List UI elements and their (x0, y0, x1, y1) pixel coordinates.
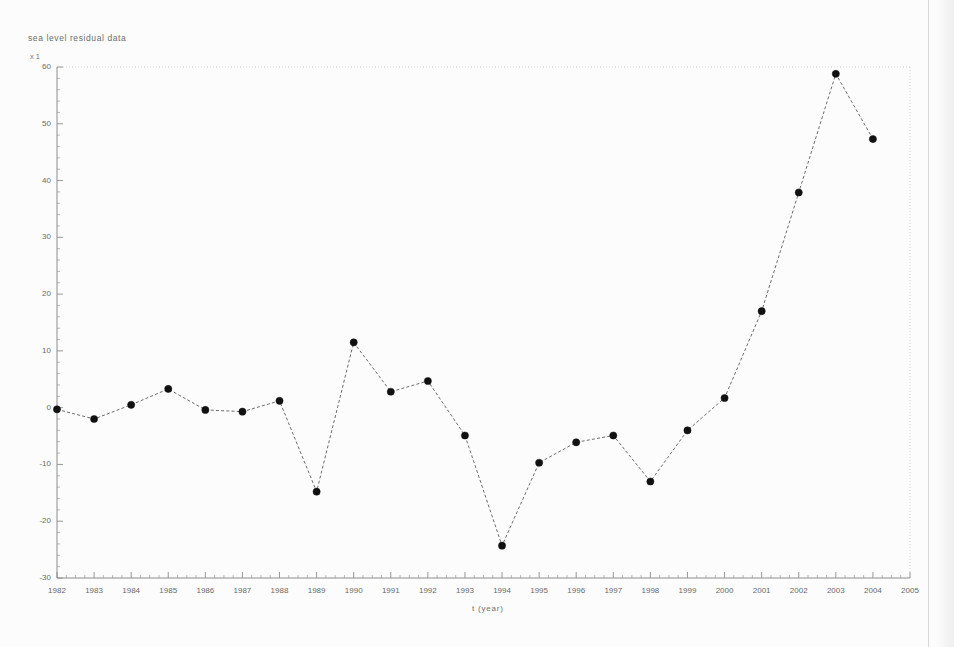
x-tick-label: 1993 (448, 586, 482, 595)
figure-page: sea level residual data x 1 t (year) 605… (0, 0, 954, 647)
data-point-marker (387, 388, 394, 395)
data-markers-group (53, 70, 876, 549)
x-tick-label: 2001 (745, 586, 779, 595)
plot-title: sea level residual data (28, 33, 126, 43)
x-tick-label: 1997 (596, 586, 630, 595)
x-tick-label: 2000 (708, 586, 742, 595)
y-tick-label: 30 (25, 232, 51, 241)
x-tick-label: 1988 (263, 586, 297, 595)
data-point-marker (202, 406, 209, 413)
tick-marks-group (57, 67, 910, 578)
x-tick-label: 1994 (485, 586, 519, 595)
y-tick-label: -20 (25, 516, 51, 525)
x-tick-label: 1990 (337, 586, 371, 595)
data-point-marker (573, 439, 580, 446)
data-point-marker (721, 394, 728, 401)
x-tick-label: 1996 (559, 586, 593, 595)
x-tick-label: 1983 (77, 586, 111, 595)
data-point-marker (165, 385, 172, 392)
y-tick-label: 0 (25, 403, 51, 412)
x-tick-label: 2002 (782, 586, 816, 595)
data-point-marker (350, 339, 357, 346)
y-tick-label: -30 (25, 573, 51, 582)
data-line (57, 74, 873, 546)
data-point-marker (610, 432, 617, 439)
y-tick-label: 60 (25, 62, 51, 71)
y-tick-label: 40 (25, 176, 51, 185)
data-point-marker (313, 488, 320, 495)
data-point-marker (684, 427, 691, 434)
data-point-marker (461, 432, 468, 439)
x-tick-label: 2003 (819, 586, 853, 595)
x-tick-label: 2005 (893, 586, 927, 595)
x-tick-label: 1995 (522, 586, 556, 595)
data-point-marker (832, 70, 839, 77)
x-tick-label: 2004 (856, 586, 890, 595)
data-point-marker (90, 415, 97, 422)
x-tick-label: 1989 (300, 586, 334, 595)
y-tick-label: 10 (25, 346, 51, 355)
y-tick-label: 20 (25, 289, 51, 298)
data-point-marker (53, 406, 60, 413)
data-point-marker (128, 401, 135, 408)
x-tick-label: 1999 (670, 586, 704, 595)
data-point-marker (498, 542, 505, 549)
y-tick-label: 50 (25, 119, 51, 128)
x-tick-label: 1987 (225, 586, 259, 595)
x-tick-label: 1992 (411, 586, 445, 595)
data-point-marker (758, 308, 765, 315)
data-point-marker (795, 189, 802, 196)
axes-group (57, 67, 910, 578)
data-point-marker (647, 478, 654, 485)
x-axis-title: t (year) (472, 604, 504, 613)
y-tick-label: -10 (25, 459, 51, 468)
data-point-marker (276, 397, 283, 404)
chart-canvas: sea level residual data x 1 t (year) 605… (0, 0, 954, 647)
x-tick-label: 1984 (114, 586, 148, 595)
y-axis-unit-label: x 1 (30, 52, 40, 61)
x-tick-label: 1986 (188, 586, 222, 595)
data-point-marker (536, 459, 543, 466)
line-chart-plot (0, 0, 954, 647)
x-tick-label: 1982 (40, 586, 74, 595)
data-series-group (57, 74, 873, 546)
data-point-marker (424, 377, 431, 384)
x-tick-label: 1991 (374, 586, 408, 595)
x-tick-label: 1998 (633, 586, 667, 595)
data-point-marker (869, 136, 876, 143)
scan-edge-line (928, 0, 929, 647)
x-tick-label: 1985 (151, 586, 185, 595)
data-point-marker (239, 408, 246, 415)
